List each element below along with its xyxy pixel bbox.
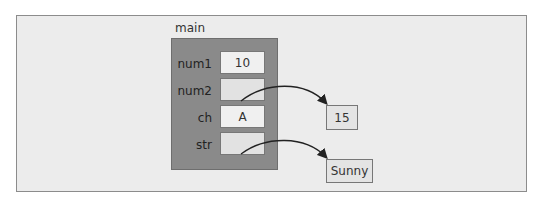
arrow-num2-to-15 xyxy=(241,86,326,103)
reference-arrows xyxy=(0,0,544,206)
arrow-str-to-sunny xyxy=(241,140,326,157)
